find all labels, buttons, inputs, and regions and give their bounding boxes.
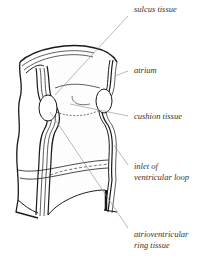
- label-atrioventricular-ring-tissue: atrioventricular ring tissue: [134, 229, 188, 251]
- heart-tube-illustration: [16, 46, 117, 218]
- heart-tube-diagram: [0, 0, 209, 262]
- label-atrium: atrium: [134, 65, 157, 76]
- leader-atrium: [115, 71, 128, 76]
- label-cushion-tissue: cushion tissue: [134, 111, 182, 122]
- label-sulcus-tissue: sulcus tissue: [134, 4, 177, 15]
- label-inlet-ventricular-loop: inlet of ventricular loop: [134, 161, 189, 183]
